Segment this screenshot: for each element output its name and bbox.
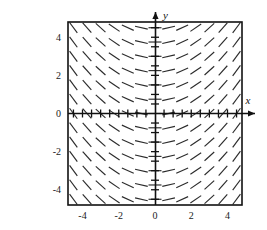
y-tick-label: 0 bbox=[56, 108, 61, 119]
y-axis-label: y bbox=[162, 9, 168, 21]
y-tick-label: -2 bbox=[53, 146, 61, 157]
figure-page: (C) x y -4-2024 420-2-4 bbox=[0, 0, 267, 230]
x-tick-label: -2 bbox=[115, 210, 123, 221]
x-tick-label: 2 bbox=[189, 210, 194, 221]
y-tick-label: 2 bbox=[56, 70, 61, 81]
y-tick-label: -4 bbox=[53, 184, 61, 195]
x-tick-label: 4 bbox=[225, 210, 230, 221]
x-tick-label: 0 bbox=[153, 210, 158, 221]
x-axis-label: x bbox=[245, 94, 251, 106]
x-tick-label: -4 bbox=[78, 210, 86, 221]
y-tick-label: 4 bbox=[56, 32, 61, 43]
direction-field-plot: x y -4-2024 420-2-4 bbox=[0, 0, 267, 230]
